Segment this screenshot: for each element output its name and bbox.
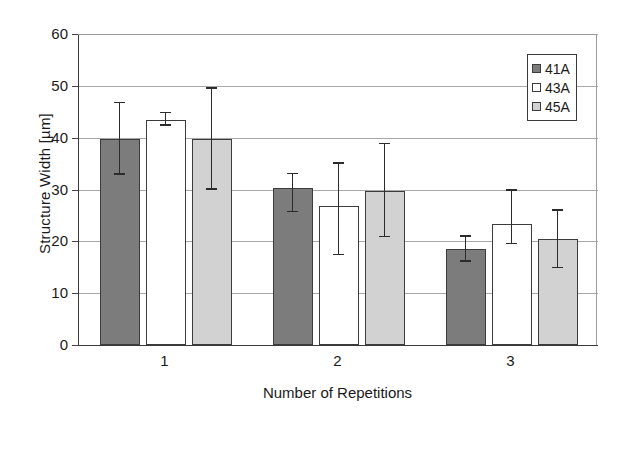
error-bar-line-45A-1 [211,89,213,190]
error-bar-line-43A-2 [338,164,340,256]
error-bar-line-45A-3 [557,211,559,269]
legend-item: 43A [532,78,570,97]
error-bar-line-41A-2 [292,174,294,212]
legend-swatch-41A [532,64,541,73]
bar-43A-1 [146,120,186,345]
y-axis-tick-label: 50 [22,80,68,92]
error-bar-line-45A-2 [384,144,386,237]
error-bar-cap-upper-41A-1 [114,102,125,104]
plot-area [78,34,598,346]
legend-label-45A: 45A [545,100,570,114]
error-bar-line-41A-1 [119,103,121,175]
bar-chart-figure: Structure Width [µm] 0102030405060 123 N… [0,0,624,451]
y-axis-tick-label: 10 [22,287,68,299]
legend-label-43A: 43A [545,81,570,95]
error-bar-cap-lower-45A-3 [552,267,563,269]
bar-41A-3 [446,249,486,345]
error-bar-cap-lower-41A-2 [287,211,298,213]
error-bar-cap-lower-45A-2 [379,236,390,238]
error-bar-cap-lower-43A-2 [333,254,344,256]
y-axis-tick-label: 40 [22,132,68,144]
error-bar-cap-upper-43A-3 [506,189,517,191]
legend-swatch-43A [532,83,541,92]
gridline [79,86,598,87]
y-axis-tick-label: 30 [22,184,68,196]
y-axis-tick-label: 20 [22,235,68,247]
error-bar-line-43A-3 [511,191,513,245]
gridline [79,34,598,35]
y-axis-tick-label: 60 [22,28,68,40]
error-bar-cap-lower-43A-3 [506,243,517,245]
error-bar-cap-upper-45A-2 [379,143,390,145]
x-axis-tick-label-3: 3 [481,352,541,369]
legend-item: 45A [532,97,570,116]
error-bar-cap-upper-45A-3 [552,209,563,211]
error-bar-cap-upper-43A-2 [333,162,344,164]
error-bar-line-41A-3 [465,237,467,262]
x-axis-tick-label-2: 2 [308,352,368,369]
chart-legend: 41A 43A 45A [527,54,577,121]
error-bar-cap-upper-43A-1 [160,112,171,114]
error-bar-cap-lower-45A-1 [206,188,217,190]
x-axis-title: Number of Repetitions [78,384,597,401]
error-bar-cap-lower-43A-1 [160,124,171,126]
y-axis-tick-label: 0 [22,339,68,351]
error-bar-cap-upper-41A-3 [460,235,471,237]
legend-label-41A: 41A [545,62,570,76]
legend-swatch-45A [532,102,541,111]
x-axis-tick-label-1: 1 [135,352,195,369]
error-bar-cap-lower-41A-1 [114,173,125,175]
error-bar-cap-lower-41A-3 [460,260,471,262]
error-bar-cap-upper-45A-1 [206,87,217,89]
legend-item: 41A [532,59,570,78]
error-bar-cap-upper-41A-2 [287,173,298,175]
